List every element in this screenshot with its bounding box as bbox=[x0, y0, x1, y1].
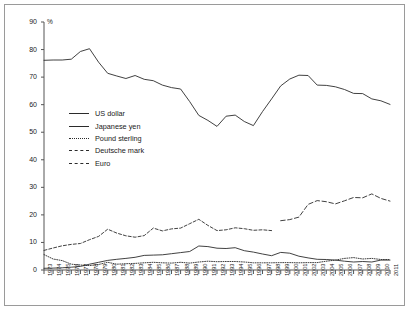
legend-label: Euro bbox=[95, 160, 110, 168]
legend-item: Deutsche mark bbox=[69, 145, 144, 157]
legend-line-swatch bbox=[69, 113, 89, 115]
legend-item: Pound sterling bbox=[69, 133, 144, 145]
legend-label: Deutsche mark bbox=[95, 147, 144, 155]
legend-line-swatch bbox=[69, 163, 89, 165]
legend-item: US dollar bbox=[69, 108, 144, 120]
legend-label: Pound sterling bbox=[95, 135, 142, 143]
legend-label: US dollar bbox=[95, 110, 125, 118]
legend-item: Euro bbox=[69, 158, 144, 170]
legend-line-swatch bbox=[69, 126, 89, 128]
legend-line-swatch bbox=[69, 150, 89, 152]
legend-line-swatch bbox=[69, 138, 89, 140]
line-chart-canvas bbox=[0, 0, 411, 311]
legend-item: Japanese yen bbox=[69, 120, 144, 132]
legend-label: Japanese yen bbox=[95, 123, 140, 131]
chart-legend: US dollarJapanese yenPound sterlingDeuts… bbox=[69, 108, 144, 170]
